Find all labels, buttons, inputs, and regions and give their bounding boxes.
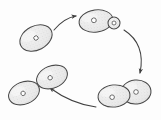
cell-cycle-diagram [0, 0, 161, 120]
nucleus [91, 18, 96, 23]
bud-nucleus [133, 89, 138, 94]
cell-cycle-figure [0, 0, 161, 120]
nucleus [110, 95, 115, 100]
bud-nucleus [112, 21, 116, 25]
small-bud [108, 17, 120, 29]
